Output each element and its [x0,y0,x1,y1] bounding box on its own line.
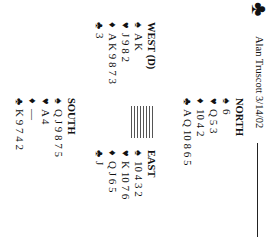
spade-icon: ♠ [220,98,233,109]
cards-clubs: 3 [93,33,106,39]
cards-diamonds: A K 9 8 7 3 [106,33,119,84]
diamond-icon: ♦ [106,150,119,161]
byline: Alan Truscott 3/14/02 [254,36,265,128]
club-icon: ♣ [93,150,106,161]
hand-north: NORTH ♠6 ♥Q 5 3 ♦10 4 2 ♣A Q 10 8 6 5 [181,98,246,166]
cards-hearts: A 4 [39,109,52,125]
club-icon: ♣ [13,98,26,109]
cards-clubs: J [93,161,106,165]
header-rule [257,143,258,237]
hand-name: NORTH [233,98,246,166]
cards-diamonds: Q J 6 5 [106,161,119,192]
hand-west: WEST (D) ♠A K ♥J 9 8 2 ♦A K 9 8 7 3 ♣3 [93,22,158,84]
cards-diamonds: — [26,109,39,120]
club-icon: ♣ [181,98,194,109]
club-icon: ♣ [248,2,268,16]
heart-icon: ♥ [119,22,132,33]
cards-clubs: A Q 10 8 6 5 [181,109,194,166]
hand-name: WEST (D) [145,22,158,84]
cards-hearts: Q 5 3 [207,109,220,133]
hand-east: EAST ♠10 4 3 2 ♥K 10 7 6 ♦Q J 6 5 ♣J [93,150,158,199]
cards-clubs: K 9 7 4 2 [13,109,26,150]
cards-spades: Q J 9 8 7 5 [52,109,65,157]
heart-icon: ♥ [39,98,52,109]
club-icon: ♣ [93,22,106,33]
diamond-icon: ♦ [106,22,119,33]
cards-diamonds: 10 4 2 [194,109,207,137]
hand-name: SOUTH [65,98,78,157]
heart-icon: ♥ [207,98,220,109]
cards-spades: 10 4 3 2 [132,161,145,197]
bridge-diagram: ♣ Alan Truscott 3/14/02 NORTH ♠6 ♥Q 5 3 … [0,0,268,237]
cards-hearts: J 9 8 2 [119,33,132,62]
spade-icon: ♠ [132,150,145,161]
cards-spades: A K [132,33,145,51]
table-icon [129,106,153,138]
hand-name: EAST [145,150,158,199]
diamond-icon: ♦ [194,98,207,109]
spade-icon: ♠ [52,98,65,109]
heart-icon: ♥ [119,150,132,161]
spade-icon: ♠ [132,22,145,33]
diamond-icon: ♦ [26,98,39,109]
cards-spades: 6 [220,109,233,115]
hand-south: SOUTH ♠Q J 9 8 7 5 ♥A 4 ♦— ♣K 9 7 4 2 [13,98,78,157]
cards-hearts: K 10 7 6 [119,161,132,199]
